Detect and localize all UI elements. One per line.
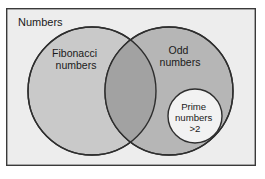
set-label-odd-line1: Odd — [169, 44, 189, 56]
venn-diagram-canvas: Numbers Fibonacci numbers Odd numbers Pr… — [0, 0, 265, 179]
set-label-odd-line2: numbers — [160, 56, 201, 68]
set-label-fibonacci-line1: Fibonacci — [52, 47, 97, 59]
set-label-fibonacci: Fibonacci numbers — [52, 47, 100, 71]
venn-diagram-container: Numbers Fibonacci numbers Odd numbers Pr… — [0, 0, 265, 179]
set-label-prime-line1: Prime — [181, 101, 206, 112]
set-label-prime-line2: numbers — [175, 112, 213, 123]
set-label-fibonacci-line2: numbers — [56, 59, 97, 71]
universal-set-label: Numbers — [18, 16, 63, 28]
set-label-prime-line3: >2 — [190, 123, 201, 134]
